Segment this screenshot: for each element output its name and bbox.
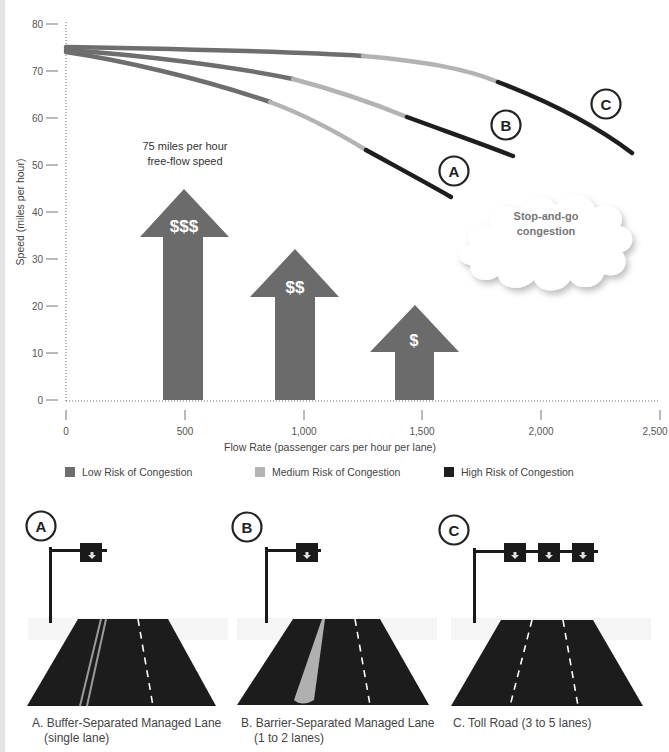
cloud-text-line2: congestion [517, 225, 576, 237]
badge-a: A [440, 157, 469, 186]
dollar-icon: $$$ [170, 217, 199, 236]
y-tick-label: 70 [32, 66, 44, 77]
x-tick-label: 2,500 [642, 426, 667, 437]
x-ticks: 0 500 1,000 1,500 2,000 2,500 [63, 410, 668, 437]
y-tick-label: 60 [32, 113, 44, 124]
toll-sign-icon [80, 543, 102, 562]
svg-text:A: A [449, 163, 460, 180]
legend-item-medium: Medium Risk of Congestion [255, 466, 400, 478]
sign-pole [473, 548, 476, 623]
badge-c: C [592, 90, 621, 119]
y-tick-label: 50 [32, 160, 44, 171]
svg-text:C: C [601, 96, 612, 113]
panel-a-caption-line2: (single lane) [44, 731, 109, 745]
legend-item-high: High Risk of Congestion [444, 466, 574, 478]
dollar-icon: $ [410, 332, 419, 349]
toll-sign-icon [572, 543, 594, 562]
y-tick-label: 10 [32, 348, 44, 359]
panel-a: A A. Buffer-Separated Managed Lane (sing… [27, 512, 229, 746]
svg-text:B: B [501, 117, 512, 134]
legend-item-low: Low Risk of Congestion [65, 466, 192, 478]
y-tick-label: 40 [32, 207, 44, 218]
arrow-low-cost: $ [370, 305, 459, 400]
y-tick-label: 30 [32, 254, 44, 265]
toll-sign-icon [504, 543, 526, 562]
panel-b-caption-line2: (1 to 2 lanes) [254, 731, 324, 745]
legend-label-high: High Risk of Congestion [461, 466, 574, 478]
chart-canvas: 0 10 20 30 40 50 60 70 80 Speed (miles p… [0, 0, 669, 752]
dollar-icon: $$ [286, 278, 305, 297]
sign-pole [265, 547, 268, 623]
freeflow-note-line1: 75 miles per hour [143, 140, 228, 152]
cloud-text-line1: Stop-and-go [514, 210, 579, 222]
legend: Low Risk of Congestion Medium Risk of Co… [0, 466, 669, 486]
legend-swatch-medium [255, 467, 265, 477]
x-tick-label: 1,500 [409, 426, 434, 437]
legend-swatch-low [65, 467, 75, 477]
y-axis-title: Speed (miles per hour) [14, 159, 26, 266]
x-tick-label: 500 [177, 426, 194, 437]
panel-a-caption-line1: A. Buffer-Separated Managed Lane [32, 716, 222, 730]
sign-pole [49, 547, 52, 623]
panel-c-caption-line1: C. Toll Road (3 to 5 lanes) [453, 716, 592, 730]
x-tick-label: 2,000 [528, 426, 553, 437]
x-tick-label: 1,000 [291, 426, 316, 437]
y-ticks: 0 10 20 30 40 50 60 70 80 [32, 19, 58, 406]
legend-label-low: Low Risk of Congestion [82, 466, 192, 478]
panel-b: B B. Barrier-Separated Managed Lane (1 t… [233, 513, 438, 746]
y-tick-label: 80 [32, 19, 44, 30]
svg-text:B: B [242, 519, 253, 536]
panel-c: C C. Toll Road (3 to 5 lanes) [440, 516, 652, 731]
svg-text:C: C [449, 522, 460, 539]
svg-text:A: A [36, 518, 47, 535]
legend-swatch-high [444, 467, 454, 477]
arrow-mid-cost: $$ [250, 249, 339, 400]
arrow-high-cost: $$$ [140, 189, 229, 400]
toll-sign-icon [296, 543, 318, 562]
y-tick-label: 0 [37, 395, 43, 406]
y-tick-label: 20 [32, 301, 44, 312]
x-tick-label: 0 [63, 426, 69, 437]
curve-c [66, 47, 632, 153]
toll-sign-icon [538, 543, 560, 562]
freeflow-note-line2: free-flow speed [147, 155, 222, 167]
x-axis-title: Flow Rate (passenger cars per hour per l… [224, 441, 436, 453]
legend-label-medium: Medium Risk of Congestion [272, 466, 400, 478]
panel-b-caption-line1: B. Barrier-Separated Managed Lane [241, 716, 435, 730]
curves [66, 47, 632, 197]
badge-b: B [492, 111, 521, 140]
